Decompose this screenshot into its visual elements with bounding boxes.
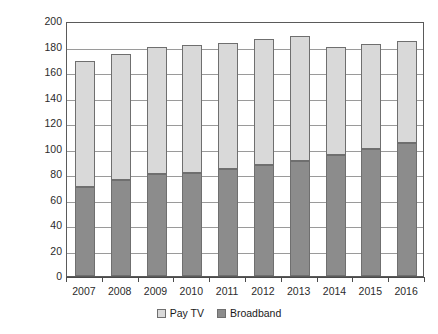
bar-group[interactable]: [397, 21, 417, 276]
x-axis-tick-mark: [281, 277, 282, 282]
bar-segment-broadband[interactable]: [147, 174, 167, 276]
x-axis-tick-mark: [66, 277, 67, 282]
x-axis-tick-mark: [209, 277, 210, 282]
bar-segment-broadband[interactable]: [218, 169, 238, 276]
legend-swatch-icon: [217, 309, 226, 318]
bar-segment-broadband[interactable]: [290, 161, 310, 276]
bar-segment-pay-tv[interactable]: [75, 61, 95, 187]
y-axis-tick-label: 140: [28, 93, 62, 104]
bar-segment-pay-tv[interactable]: [290, 36, 310, 161]
chart-legend: Pay TVBroadband: [0, 307, 438, 319]
bar-segment-broadband[interactable]: [254, 165, 274, 276]
y-axis-tick-label: 60: [28, 195, 62, 206]
bar-group[interactable]: [111, 21, 131, 276]
bar-segment-broadband[interactable]: [397, 143, 417, 276]
bar-segment-pay-tv[interactable]: [111, 54, 131, 180]
bar-group[interactable]: [361, 21, 381, 276]
bar-segment-pay-tv[interactable]: [326, 47, 346, 155]
bar-segment-broadband[interactable]: [326, 155, 346, 276]
x-axis-tick-label: 2016: [383, 285, 429, 297]
bar-segment-pay-tv[interactable]: [147, 47, 167, 175]
y-axis-tick-container: 020406080100120140160180200: [24, 0, 62, 334]
y-axis-tick-label: 200: [28, 16, 62, 27]
x-axis-tick-mark: [102, 277, 103, 282]
legend-swatch-icon: [157, 309, 166, 318]
bar-segment-pay-tv[interactable]: [254, 39, 274, 165]
bar-segment-pay-tv[interactable]: [218, 43, 238, 169]
x-axis-tick-mark: [388, 277, 389, 282]
bar-group[interactable]: [290, 21, 310, 276]
y-axis-tick-label: 180: [28, 42, 62, 53]
x-axis-tick-mark: [138, 277, 139, 282]
y-axis-tick-label: 20: [28, 246, 62, 257]
legend-label: Pay TV: [170, 307, 204, 319]
x-axis-tick-mark: [245, 277, 246, 282]
bar-segment-broadband[interactable]: [361, 149, 381, 277]
bar-segment-broadband[interactable]: [182, 173, 202, 276]
x-axis-tick-mark: [317, 277, 318, 282]
x-axis-tick-mark: [424, 277, 425, 282]
y-axis-tick-label: 80: [28, 169, 62, 180]
y-axis-tick-label: 120: [28, 118, 62, 129]
bar-group[interactable]: [254, 21, 274, 276]
bar-segment-pay-tv[interactable]: [361, 44, 381, 149]
bar-segment-pay-tv[interactable]: [397, 41, 417, 143]
legend-item-pay-tv[interactable]: Pay TV: [157, 307, 204, 319]
bar-group[interactable]: [326, 21, 346, 276]
y-axis-tick-label: 0: [28, 271, 62, 282]
bar-segment-pay-tv[interactable]: [182, 45, 202, 173]
bar-segment-broadband[interactable]: [111, 180, 131, 276]
plot-area: [66, 22, 424, 277]
bar-group[interactable]: [147, 21, 167, 276]
bar-group[interactable]: [75, 21, 95, 276]
legend-label: Broadband: [230, 307, 281, 319]
legend-item-broadband[interactable]: Broadband: [217, 307, 281, 319]
bar-group[interactable]: [182, 21, 202, 276]
x-axis-tick-mark: [352, 277, 353, 282]
y-axis-tick-label: 40: [28, 220, 62, 231]
y-axis-tick-label: 160: [28, 67, 62, 78]
y-axis-tick-label: 100: [28, 144, 62, 155]
stacked-bar-chart: Millions of Subscribers 0204060801001201…: [0, 0, 438, 334]
bar-group[interactable]: [218, 21, 238, 276]
x-axis-tick-mark: [173, 277, 174, 282]
bar-segment-broadband[interactable]: [75, 187, 95, 276]
